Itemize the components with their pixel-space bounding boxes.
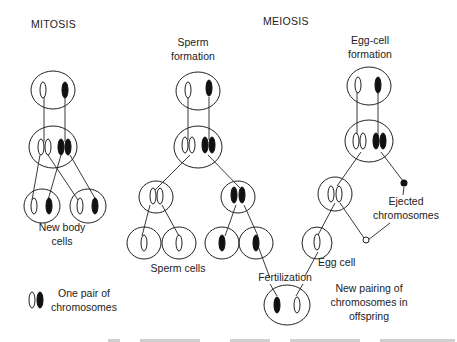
meiosis-mitosis-diagram: MITOSIS MEIOSIS New body cells Sperm for (0, 0, 457, 342)
offspring-cell (264, 285, 310, 325)
sperm-formation-label: Sperm (178, 36, 209, 48)
mitosis-branch: New body cells (24, 71, 106, 247)
new-body-cells-label: New body (39, 221, 86, 233)
sperm-parent-cell (176, 72, 220, 110)
fertilization-label: Fertilization (258, 271, 312, 283)
mitosis-daughter-cell-left (24, 189, 60, 223)
ejected-chromosome-black (401, 180, 408, 187)
egg-formation-label-line2: formation (348, 48, 392, 60)
legend: One pair of chromosomes (29, 287, 117, 313)
sperm-formation-label-line2: formation (171, 50, 215, 62)
legend-black-chromosome-icon (37, 292, 43, 308)
sperm-formation-branch: Sperm formation (127, 36, 273, 278)
mitosis-title: MITOSIS (31, 18, 76, 30)
ejected-chromosomes-label-line2: chromosomes (373, 209, 439, 221)
egg-cell-label: Egg cell (318, 256, 355, 268)
ejected-chromosomes-label: Ejected (388, 195, 423, 207)
new-body-cells-label-line2: cells (51, 235, 72, 247)
legend-label: One pair of (58, 287, 110, 299)
egg-formation-branch: Egg-cell formation Eject (302, 34, 439, 276)
egg-secondary-cell (318, 177, 352, 211)
ejected-chromosome-white (363, 237, 369, 243)
mitosis-daughter-cell-right (70, 189, 106, 223)
black-chromosome (62, 82, 68, 98)
offspring-label: New pairing of (335, 282, 402, 294)
offspring-label-line2: chromosomes in (330, 296, 407, 308)
offspring-label-line3: offspring (349, 310, 389, 322)
egg-formation-label: Egg-cell (351, 34, 389, 46)
white-chromosome (40, 82, 46, 98)
legend-white-chromosome-icon (29, 292, 35, 308)
legend-label-line2: chromosomes (51, 301, 117, 313)
sperm-cells-label: Sperm cells (151, 262, 206, 274)
fertilization-branch: Fertilization New pairing of chromosomes… (258, 271, 408, 325)
egg-parent-cell (347, 67, 391, 105)
meiosis-title: MEIOSIS (263, 15, 309, 27)
